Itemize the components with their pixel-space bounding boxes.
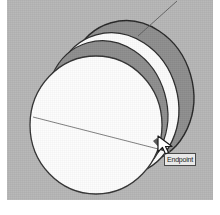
model-scene[interactable] [7, 0, 213, 200]
screenshot-root: Endpoint [0, 0, 220, 215]
modeling-viewport[interactable] [7, 0, 213, 200]
front-circle-face[interactable] [30, 56, 162, 194]
pencil-cursor [155, 133, 181, 159]
